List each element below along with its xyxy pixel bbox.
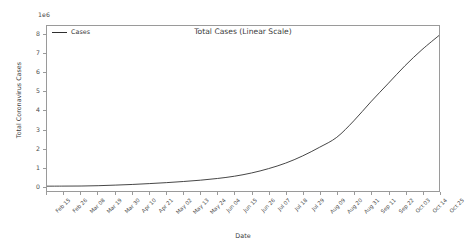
x-tick-label: Jun 26 [260, 197, 276, 213]
x-tick-label: Sep 22 [397, 197, 414, 214]
y-axis-label: Total Coronavirus Cases [15, 40, 23, 160]
y-tick-label: 5 [24, 87, 40, 94]
y-tick-label: 4 [24, 106, 40, 113]
x-tick-mark [80, 192, 81, 195]
x-tick-label: Apr 21 [157, 197, 174, 214]
x-tick-mark [423, 192, 424, 195]
chart-title: Total Cases (Linear Scale) [46, 27, 440, 36]
x-tick-label: May 02 [175, 197, 193, 215]
x-tick-mark [337, 192, 338, 195]
x-tick-label: Mar 19 [106, 197, 124, 215]
y-axis-offset-text: 1e6 [38, 11, 50, 18]
x-tick-mark [286, 192, 287, 195]
y-tick-label: 1 [24, 164, 40, 171]
x-tick-label: May 24 [209, 197, 227, 215]
y-tick-label: 8 [24, 30, 40, 37]
plot-area [46, 25, 440, 192]
x-tick-mark [97, 192, 98, 195]
cases-line-series [47, 26, 439, 191]
x-tick-mark [320, 192, 321, 195]
y-tick-label: 2 [24, 145, 40, 152]
x-tick-label: Jun 04 [225, 197, 241, 213]
x-tick-mark [115, 192, 116, 195]
y-tick-label: 7 [24, 49, 40, 56]
x-tick-label: Aug 20 [346, 197, 364, 215]
x-tick-mark [389, 192, 390, 195]
cases-line-path [47, 35, 439, 186]
x-tick-label: Jul 18 [293, 197, 308, 212]
x-tick-label: Aug 31 [363, 197, 381, 215]
chart-figure: 1e6 Total Coronavirus Cases 012345678 Fe… [0, 0, 471, 251]
y-tick-label: 6 [24, 68, 40, 75]
legend-line-swatch [52, 32, 67, 33]
x-tick-mark [63, 192, 64, 195]
x-tick-mark [200, 192, 201, 195]
x-tick-mark [354, 192, 355, 195]
x-tick-mark [132, 192, 133, 195]
x-tick-label: Sep 11 [380, 197, 397, 214]
x-tick-label: Feb 26 [71, 197, 88, 214]
x-tick-label: Mar 30 [123, 197, 141, 215]
x-tick-mark [406, 192, 407, 195]
x-tick-label: Apr 10 [140, 197, 157, 214]
x-tick-mark [371, 192, 372, 195]
x-tick-label: Oct 14 [431, 197, 448, 214]
x-tick-mark [46, 192, 47, 195]
x-tick-mark [149, 192, 150, 195]
x-axis-label: Date [46, 232, 440, 240]
x-tick-label: Jul 29 [310, 197, 325, 212]
x-tick-label: Oct 03 [414, 197, 431, 214]
x-tick-mark [183, 192, 184, 195]
y-tick-label: 0 [24, 183, 40, 190]
x-tick-mark [303, 192, 304, 195]
y-tick-label: 3 [24, 126, 40, 133]
x-tick-label: Aug 09 [329, 197, 347, 215]
x-tick-mark [234, 192, 235, 195]
x-tick-label: Feb 15 [54, 197, 71, 214]
x-tick-mark [166, 192, 167, 195]
x-tick-label: Oct 25 [448, 197, 465, 214]
x-tick-label: May 13 [192, 197, 210, 215]
chart-legend: Cases [52, 28, 90, 36]
x-tick-mark [217, 192, 218, 195]
x-tick-label: Jun 15 [242, 197, 258, 213]
x-tick-mark [440, 192, 441, 195]
x-tick-label: Mar 08 [89, 197, 107, 215]
x-tick-mark [252, 192, 253, 195]
x-tick-mark [269, 192, 270, 195]
legend-label-cases: Cases [71, 28, 90, 36]
x-tick-label: Jul 07 [276, 197, 291, 212]
